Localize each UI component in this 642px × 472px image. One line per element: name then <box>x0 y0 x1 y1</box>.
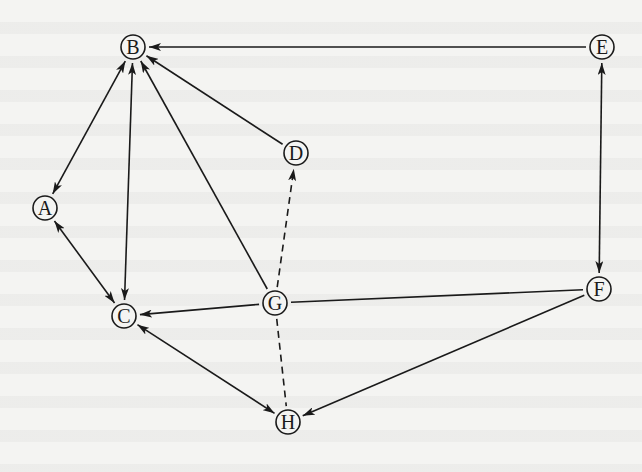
edge-a-b <box>53 61 126 194</box>
node-label: B <box>126 36 139 58</box>
edge-g-f <box>291 290 583 303</box>
node-c: C <box>112 304 136 328</box>
node-label: E <box>596 36 608 58</box>
edge-g-c <box>140 304 259 314</box>
node-g: G <box>263 291 287 315</box>
edge-layer <box>53 47 602 416</box>
edge-g-b <box>141 61 267 289</box>
edge-e-f <box>599 63 602 273</box>
edge-c-b <box>125 63 133 300</box>
edge-g-d <box>277 169 294 287</box>
node-e: E <box>590 35 614 59</box>
edge-g-h <box>277 319 287 406</box>
node-label: G <box>268 292 282 314</box>
node-b: B <box>121 35 145 59</box>
edge-d-b <box>146 56 282 145</box>
edge-c-h <box>137 325 274 414</box>
node-layer: ABCDEFGH <box>33 35 614 434</box>
node-label: F <box>593 278 604 300</box>
diagram-canvas: ABCDEFGH <box>0 0 642 472</box>
node-label: C <box>117 305 130 327</box>
node-h: H <box>276 410 300 434</box>
node-label: D <box>289 142 303 164</box>
node-a: A <box>33 196 57 220</box>
edge-f-h <box>303 295 585 415</box>
node-d: D <box>284 141 308 165</box>
node-label: H <box>281 411 295 433</box>
node-label: A <box>38 197 53 219</box>
edge-a-c <box>54 221 114 303</box>
graph-svg: ABCDEFGH <box>0 0 642 472</box>
node-f: F <box>587 277 611 301</box>
